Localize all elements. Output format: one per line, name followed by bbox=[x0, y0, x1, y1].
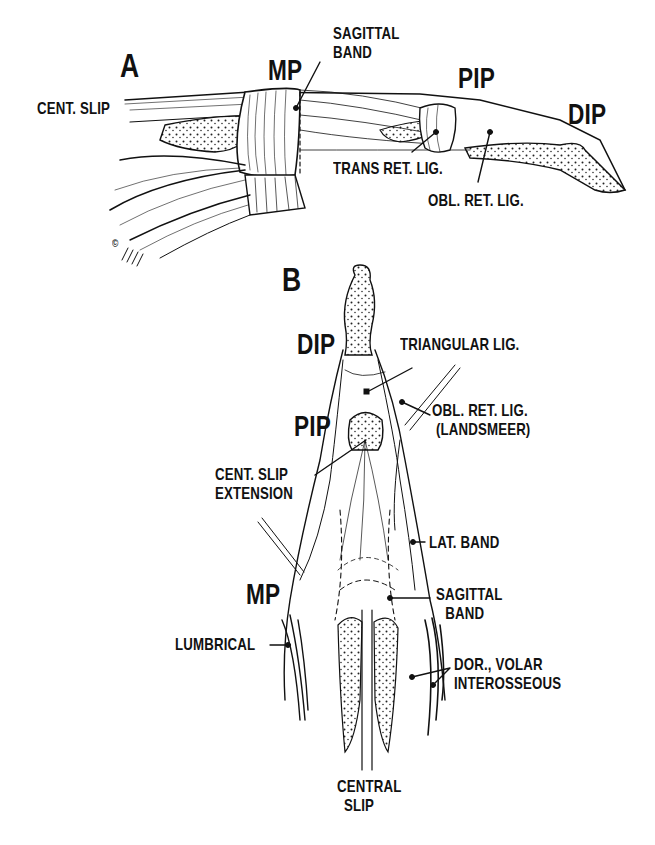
panel-a-trans-ret-lig-label: TRANS RET. LIG. bbox=[333, 160, 443, 177]
panel-b-central-slip-label: CENTRAL SLIP bbox=[337, 778, 401, 815]
panel-b-triangular-lig-label: TRIANGULAR LIG. bbox=[400, 336, 519, 353]
panel-b-sagittal-band-label: SAGITTAL BAND bbox=[436, 586, 503, 623]
panel-a-dip-label: DIP bbox=[568, 100, 606, 129]
panel-a-letter: A bbox=[120, 48, 139, 82]
panel-a-mp-label: MP bbox=[268, 56, 302, 85]
panel-b-letter: B bbox=[282, 262, 301, 296]
panel-b-mp-label: MP bbox=[246, 580, 280, 609]
panel-b-cent-slip-extension-label: CENT. SLIP EXTENSION bbox=[215, 466, 293, 503]
panel-b-lat-band-label: LAT. BAND bbox=[429, 534, 499, 551]
panel-a-pip-label: PIP bbox=[458, 64, 495, 93]
panel-a-sagittal-band-label: SAGITTAL BAND bbox=[333, 25, 400, 62]
panel-b-interosseous-label: DOR., VOLAR INTEROSSEOUS bbox=[454, 656, 561, 693]
copyright-mark: © bbox=[112, 238, 118, 249]
panel-b-pip-label: PIP bbox=[294, 412, 331, 441]
panel-b-dip-label: DIP bbox=[297, 330, 335, 359]
panel-a-cent-slip-label: CENT. SLIP bbox=[37, 100, 110, 117]
panel-a-obl-ret-lig-label: OBL. RET. LIG. bbox=[428, 192, 524, 209]
panel-b-lumbrical-label: LUMBRICAL bbox=[175, 636, 255, 653]
panel-b-obl-ret-lig-label: OBL. RET. LIG. (LANDSMEER) bbox=[432, 402, 530, 439]
